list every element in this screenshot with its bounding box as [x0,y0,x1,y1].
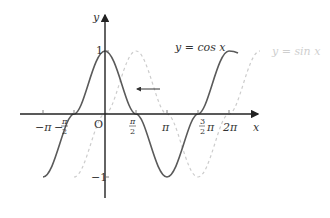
svg-text:3: 3 [200,117,205,126]
x-tick-half-pi: π 2 [129,117,136,136]
y-tick-minus-1: −1 [91,171,107,184]
svg-text:2: 2 [62,127,67,136]
x-tick-three-half-pi: 3 2 π [199,117,215,136]
y-tick-1: 1 [96,44,103,57]
cos-sin-diagram: y x O 1 −1 −π − π 2 π 2 π 3 2 π 2π y = c… [0,0,330,218]
x-tick-neg-pi: −π [35,121,52,134]
svg-text:2: 2 [200,127,205,136]
svg-text:2: 2 [130,127,135,136]
x-axis-label: x [253,121,260,134]
origin-label: O [94,118,103,131]
svg-text:π: π [129,117,136,126]
svg-text:π: π [61,117,68,126]
x-tick-neg-half-pi: − π 2 [54,117,68,136]
sin-label: y = sin x [271,45,321,58]
cos-label: y = cos x [174,41,226,54]
y-axis-label: y [92,11,100,24]
x-tick-pi: π [161,121,170,134]
x-tick-two-pi: 2π [222,121,238,134]
svg-text:π: π [206,121,215,134]
